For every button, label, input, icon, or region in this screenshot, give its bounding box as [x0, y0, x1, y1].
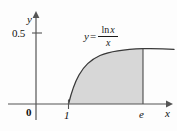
equation-equals: = — [90, 31, 96, 42]
x-axis-label: x — [165, 108, 170, 119]
figure-container: y = ln x x y x 0.5 0 1 e — [0, 0, 177, 131]
y-tick-label-0.5: 0.5 — [12, 28, 25, 39]
equation-fraction: ln x x — [98, 25, 118, 48]
x-tick-label-e: e — [139, 109, 144, 120]
equation-numerator-var: x — [110, 24, 114, 35]
equation-label: y = ln x x — [84, 25, 118, 48]
equation-numerator: ln x — [101, 25, 116, 36]
y-axis-label: y — [27, 14, 32, 25]
shaded-area — [69, 49, 144, 104]
x-tick-label-1: 1 — [64, 110, 70, 121]
equation-lhs: y — [84, 31, 89, 42]
y-axis-arrowhead — [33, 11, 40, 18]
equation-denominator: x — [105, 37, 111, 48]
origin-label: 0 — [26, 107, 32, 118]
